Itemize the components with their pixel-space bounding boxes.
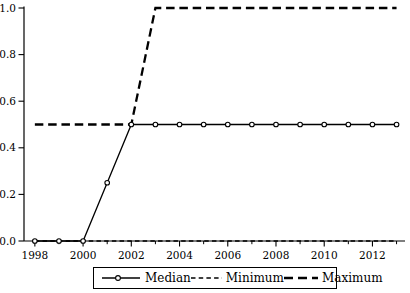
- data-point-marker: [177, 122, 182, 127]
- x-tick-label: 2002: [118, 249, 145, 261]
- y-tick-label: 0.0: [0, 235, 16, 247]
- median-markers: [33, 122, 399, 243]
- median-line: [35, 125, 397, 242]
- data-point-marker: [33, 239, 38, 244]
- legend-label-minimum: Minimum: [226, 272, 284, 284]
- y-tick-label: 0.6: [0, 95, 16, 107]
- x-tick-label: 2006: [214, 249, 241, 261]
- data-point-marker: [57, 239, 62, 244]
- data-point-marker: [225, 122, 230, 127]
- x-tick-label: 2000: [70, 249, 97, 261]
- data-point-marker: [394, 122, 399, 127]
- data-point-marker: [153, 122, 158, 127]
- legend-item-maximum: Maximum: [284, 272, 383, 284]
- data-point-marker: [322, 122, 327, 127]
- legend-item-median: Median: [101, 272, 191, 284]
- data-point-marker: [274, 122, 279, 127]
- x-tick-label: 2012: [359, 249, 386, 261]
- x-axis-ticks: 19982000200220042006200820102012: [21, 241, 396, 261]
- x-tick-label: 1998: [21, 249, 48, 261]
- y-axis-ticks: 0.00.20.40.60.81.0: [0, 2, 24, 247]
- legend-item-minimum: Minimum: [191, 272, 284, 284]
- median-series: [33, 122, 399, 243]
- chart-svg: 0.00.20.40.60.81.01998200020022004200620…: [0, 0, 410, 293]
- maximum-series: [35, 8, 397, 125]
- maximum-line-swatch-icon: [284, 273, 318, 283]
- chart-figure: 0.00.20.40.60.81.01998200020022004200620…: [0, 0, 410, 293]
- maximum-line: [35, 8, 397, 125]
- x-tick-label: 2010: [311, 249, 338, 261]
- data-point-marker: [129, 122, 134, 127]
- data-point-marker: [298, 122, 303, 127]
- y-tick-label: 0.4: [0, 141, 16, 153]
- y-tick-label: 1.0: [0, 2, 16, 14]
- legend-label-maximum: Maximum: [322, 272, 383, 284]
- y-tick-label: 0.2: [0, 188, 16, 200]
- legend-label-median: Median: [145, 272, 191, 284]
- median-line-swatch-icon: [101, 273, 141, 283]
- x-tick-label: 2004: [166, 249, 193, 261]
- legend: Median Minimum Maximum: [93, 267, 337, 289]
- x-tick-label: 2008: [263, 249, 290, 261]
- data-point-marker: [346, 122, 351, 127]
- data-point-marker: [105, 180, 110, 185]
- y-tick-label: 0.8: [0, 48, 16, 60]
- data-point-marker: [250, 122, 255, 127]
- data-point-marker: [370, 122, 375, 127]
- data-point-marker: [81, 239, 86, 244]
- data-point-marker: [201, 122, 206, 127]
- minimum-line-swatch-icon: [191, 273, 222, 283]
